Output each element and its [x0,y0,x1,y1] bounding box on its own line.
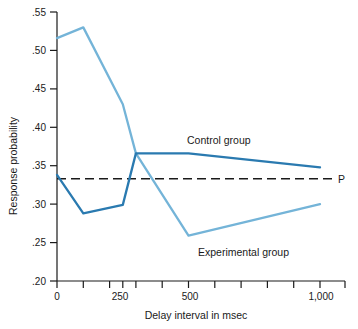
x-tick-label: 0 [54,291,60,302]
x-axis-title: Delay interval in msec [145,309,248,321]
x-tick-label: 1,000 [308,291,333,302]
reference-line-label: P [338,173,345,185]
y-tick-label: .50 [32,45,46,56]
series-label-control-group: Control group [187,134,251,146]
y-tick-label: .55 [32,7,46,18]
y-tick-label: .45 [32,83,46,94]
y-tick-label: .40 [32,122,46,133]
y-tick-label: .30 [32,199,46,210]
x-tick-label: 500 [182,291,199,302]
chart-figure: .55 .50 .45 .40 .35 .30 .25 .20 0 250 50… [0,0,358,329]
y-tick-label: .25 [32,237,46,248]
series-label-experimental-group: Experimental group [198,246,289,258]
y-tick-label: .35 [32,160,46,171]
x-tick-label: 250 [112,291,129,302]
y-tick-label: .20 [32,276,46,287]
y-axis-title: Response probability [7,116,19,215]
